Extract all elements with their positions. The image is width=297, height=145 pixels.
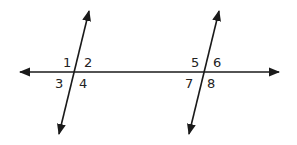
- angle-diagram: 1 2 3 4 5 6 7 8: [0, 0, 297, 145]
- angle-label-3: 3: [55, 76, 63, 91]
- angle-label-1: 1: [63, 55, 71, 70]
- angle-label-6: 6: [213, 55, 221, 70]
- angle-label-5: 5: [191, 55, 199, 70]
- angle-label-8: 8: [207, 76, 215, 91]
- angle-label-7: 7: [185, 76, 193, 91]
- angle-label-2: 2: [84, 55, 92, 70]
- angle-label-4: 4: [79, 76, 87, 91]
